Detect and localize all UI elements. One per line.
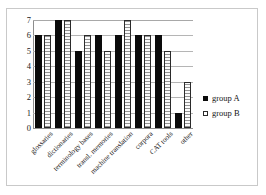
legend-item: group B xyxy=(203,107,257,120)
y-tick-label-1: 1 xyxy=(9,108,31,117)
bar-group xyxy=(53,20,73,128)
bar-group xyxy=(33,20,53,128)
bar xyxy=(144,35,152,128)
filled-square-marker xyxy=(203,96,208,101)
bar-group xyxy=(93,20,113,128)
bar xyxy=(155,35,163,128)
y-tick-label-7: 7 xyxy=(9,16,31,25)
legend-label: group A xyxy=(212,94,240,103)
y-tick-label-5: 5 xyxy=(9,47,31,56)
bar xyxy=(115,35,123,128)
bar xyxy=(64,20,72,128)
chart-legend: group Agroup B xyxy=(203,92,257,122)
bar-group xyxy=(73,20,93,128)
bar xyxy=(35,35,43,128)
bar xyxy=(75,51,83,128)
y-tick-label-0: 0 xyxy=(9,124,31,133)
bar-group xyxy=(173,20,193,128)
x-axis-label: other xyxy=(179,130,195,146)
y-tick-label-4: 4 xyxy=(9,62,31,71)
bar-group xyxy=(133,20,153,128)
bar xyxy=(184,82,192,128)
bar xyxy=(95,35,103,128)
y-axis-tick-labels: 01234567 xyxy=(7,20,31,128)
hollow-square-marker xyxy=(203,111,208,116)
x-axis-category-labels: glossariesdictionariesterminology basest… xyxy=(33,130,193,186)
bar xyxy=(55,20,63,128)
bar-group xyxy=(113,20,133,128)
bar xyxy=(164,51,172,128)
gridline-0 xyxy=(33,128,193,129)
bar-chart-figure: 01234567 glossariesdictionariesterminolo… xyxy=(6,8,258,186)
y-tick-label-6: 6 xyxy=(9,31,31,40)
plot-area xyxy=(33,20,193,128)
bar-group xyxy=(153,20,173,128)
y-tick-label-3: 3 xyxy=(9,77,31,86)
y-tick-label-2: 2 xyxy=(9,93,31,102)
bar xyxy=(84,35,92,128)
bar xyxy=(175,113,183,128)
bar xyxy=(104,51,112,128)
bar xyxy=(135,35,143,128)
bar xyxy=(124,20,132,128)
legend-label: group B xyxy=(212,109,240,118)
bars-layer xyxy=(33,20,193,128)
legend-item: group A xyxy=(203,92,257,105)
bar xyxy=(44,35,52,128)
